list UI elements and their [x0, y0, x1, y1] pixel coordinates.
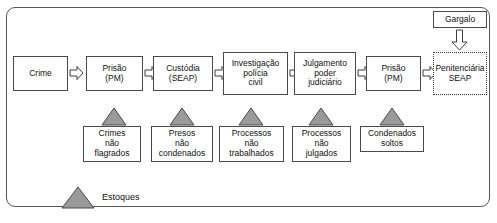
stock-triangle-condenados-soltos	[379, 107, 405, 126]
bottleneck-arrow-down	[451, 29, 468, 51]
stock-node-presos-nao-condenados-label: Presos não condenados	[152, 129, 212, 158]
process-node-prisao-pm-1-label: Prisão (PM)	[87, 64, 142, 84]
process-node-crime[interactable]: Crime	[13, 56, 68, 91]
process-node-custodia-seap-label: Custódia (SEAP)	[154, 64, 212, 84]
legend-stock-triangle-icon	[61, 186, 95, 209]
sink-node-penitenciaria-seap[interactable]: Penitenciária SEAP	[433, 52, 487, 95]
stock-node-processos-nao-trabalhados[interactable]: Processos não trabalhados	[219, 126, 284, 162]
stock-triangle-presos-nao-condenados	[169, 107, 195, 126]
process-node-julgamento-poder-judiciario[interactable]: Julgamento poder judiciário	[294, 52, 356, 95]
stock-node-crimes-nao-flagrados-label: Crimes não flagrados	[84, 129, 140, 158]
stock-node-processos-nao-julgados[interactable]: Processos não julgados	[292, 126, 351, 162]
bottleneck-node-gargalo[interactable]: Gargalo	[433, 11, 487, 28]
stock-node-condenados-soltos[interactable]: Condenados soltos	[360, 126, 424, 152]
stock-node-crimes-nao-flagrados[interactable]: Crimes não flagrados	[83, 126, 141, 162]
process-node-custodia-seap[interactable]: Custódia (SEAP)	[153, 56, 213, 91]
sink-node-penitenciaria-seap-label: Penitenciária SEAP	[434, 64, 486, 84]
process-node-prisao-pm-2[interactable]: Prisão (PM)	[366, 56, 421, 91]
stock-node-processos-nao-julgados-label: Processos não julgados	[293, 129, 350, 158]
process-node-investigacao-policia-civil-label: Investigação polícia civil	[224, 59, 287, 88]
process-node-crime-label: Crime	[14, 69, 67, 79]
stock-triangle-crimes-nao-flagrados	[101, 107, 127, 126]
process-node-prisao-pm-1[interactable]: Prisão (PM)	[86, 56, 143, 91]
stock-triangle-processos-nao-julgados	[308, 107, 334, 126]
bottleneck-node-gargalo-label: Gargalo	[434, 15, 486, 25]
process-node-prisao-pm-2-label: Prisão (PM)	[367, 64, 420, 84]
stock-node-processos-nao-trabalhados-label: Processos não trabalhados	[220, 129, 283, 158]
flow-arrow-1	[69, 65, 84, 81]
stock-node-condenados-soltos-label: Condenados soltos	[361, 129, 423, 149]
legend-label: Estoques	[102, 192, 140, 202]
diagram-frame: Crime Prisão (PM) Custódia (SEAP) Invest…	[6, 7, 490, 207]
process-node-julgamento-poder-judiciario-label: Julgamento poder judiciário	[295, 59, 355, 88]
stock-node-presos-nao-condenados[interactable]: Presos não condenados	[151, 126, 213, 162]
stock-triangle-processos-nao-trabalhados	[238, 107, 264, 126]
process-node-investigacao-policia-civil[interactable]: Investigação polícia civil	[223, 52, 288, 95]
